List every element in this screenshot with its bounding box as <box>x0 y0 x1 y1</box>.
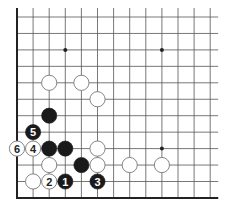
white-stone-move-2: 2 <box>42 174 57 189</box>
black-stone <box>58 141 73 156</box>
white-stone-icon <box>42 157 57 172</box>
white-stone <box>90 92 105 107</box>
white-stone-icon <box>90 157 105 172</box>
move-number-label: 4 <box>30 143 37 155</box>
white-stone-icon <box>90 92 105 107</box>
move-number-label: 5 <box>30 126 36 138</box>
black-stone-icon <box>42 108 57 123</box>
black-stone-icon <box>74 157 89 172</box>
move-number-label: 2 <box>46 176 52 188</box>
move-number-label: 1 <box>62 176 68 188</box>
white-stone-move-4: 4 <box>25 141 40 156</box>
hoshi-dot-icon <box>63 48 67 52</box>
black-stone-move-5: 5 <box>25 125 40 140</box>
black-stone <box>42 141 57 156</box>
white-stone-icon <box>90 141 105 156</box>
white-stone-icon <box>154 157 169 172</box>
go-board: 564213 <box>0 0 230 209</box>
white-stone <box>122 157 137 172</box>
move-number-label: 3 <box>94 176 100 188</box>
white-stone <box>154 157 169 172</box>
black-stone-move-1: 1 <box>58 174 73 189</box>
move-number-label: 6 <box>14 143 20 155</box>
black-stone-move-3: 3 <box>90 174 105 189</box>
black-stone-icon <box>42 141 57 156</box>
black-stone <box>74 157 89 172</box>
white-stone-icon <box>42 75 57 90</box>
white-stone <box>90 141 105 156</box>
black-stone-icon <box>58 141 73 156</box>
white-stone-icon <box>74 75 89 90</box>
hoshi-dot-icon <box>160 147 164 151</box>
white-stone <box>42 157 57 172</box>
white-stone-move-6: 6 <box>9 141 24 156</box>
white-stone <box>42 75 57 90</box>
hoshi-dot-icon <box>160 48 164 52</box>
black-stone <box>42 108 57 123</box>
white-stone <box>90 157 105 172</box>
white-stone <box>25 174 40 189</box>
white-stone-icon <box>122 157 137 172</box>
white-stone-icon <box>25 174 40 189</box>
white-stone <box>74 75 89 90</box>
